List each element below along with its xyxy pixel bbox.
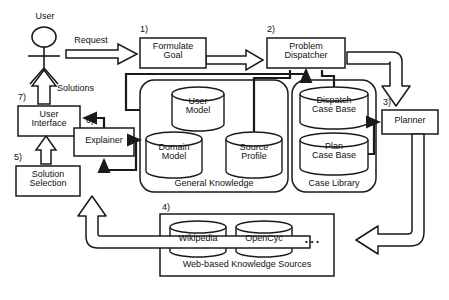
web-sources-label: Web-based Knowledge Sources bbox=[160, 260, 334, 269]
step-number-formulate-goal: 1) bbox=[140, 25, 156, 34]
general-knowledge-label: General Knowledge bbox=[140, 179, 288, 188]
explainer-label: Explainer bbox=[74, 136, 134, 145]
user-model-line2: Model bbox=[186, 105, 211, 115]
solutions-label: Solutions bbox=[57, 84, 107, 93]
step-number-problem-dispatcher: 2) bbox=[267, 25, 283, 34]
formulate-to-dispatcher-arrow bbox=[206, 50, 263, 70]
solution-selection-line2: Selection bbox=[29, 178, 66, 188]
solutions-arrow bbox=[32, 70, 56, 104]
plan-case-base-label: Plan Case Base bbox=[300, 142, 368, 161]
source-profile-label: Source Profile bbox=[226, 143, 282, 162]
step-number-explainer: 6) bbox=[86, 116, 102, 125]
user-model-label: User Model bbox=[172, 97, 224, 116]
plan-case-base-line2: Case Base bbox=[312, 150, 356, 160]
step-number-user-interface: 7) bbox=[18, 93, 34, 102]
web-sources-ellipsis: ... bbox=[298, 232, 328, 246]
opencyc-label: OpenCyc bbox=[236, 234, 292, 243]
planner-label: Planner bbox=[382, 116, 438, 125]
problem-dispatcher-label: Problem Dispatcher bbox=[267, 42, 345, 61]
solution-selection-label: Solution Selection bbox=[16, 170, 80, 189]
wikipedia-label: Wikipedia bbox=[170, 234, 226, 243]
dispatch-case-base-line2: Case Base bbox=[312, 104, 356, 114]
selection-to-interface-arrow bbox=[36, 136, 56, 164]
case-library-label: Case Library bbox=[292, 179, 376, 188]
problem-dispatcher-line2: Dispatcher bbox=[284, 50, 327, 60]
step-number-planner: 3) bbox=[383, 98, 399, 107]
diagram-canvas: User Request Solutions 1) Formulate Goal… bbox=[0, 0, 449, 300]
formulate-goal-label: Formulate Goal bbox=[140, 42, 206, 61]
actor-label: User bbox=[28, 12, 62, 21]
domain-model-label: Domain Model bbox=[146, 143, 202, 162]
step-number-web-sources: 4) bbox=[162, 203, 178, 212]
user-interface-line2: Interface bbox=[31, 118, 66, 128]
step-number-solution-selection: 5) bbox=[14, 153, 30, 162]
formulate-goal-line2: Goal bbox=[163, 50, 182, 60]
request-label: Request bbox=[68, 36, 114, 45]
user-interface-label: User Interface bbox=[18, 110, 80, 129]
dispatch-case-base-label: Dispatch Case Base bbox=[300, 96, 368, 115]
source-profile-line2: Profile bbox=[241, 151, 267, 161]
request-arrow bbox=[66, 44, 137, 64]
domain-model-line2: Model bbox=[162, 151, 187, 161]
